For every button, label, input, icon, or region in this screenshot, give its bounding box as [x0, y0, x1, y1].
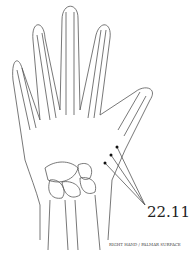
carpal-bones: [45, 162, 96, 198]
point-label: 22.11: [147, 203, 190, 221]
radius-ulna: [48, 195, 100, 250]
figure-caption: RIGHT HAND / PALMAR SURFACE: [109, 242, 181, 247]
acupoint-dots: [104, 146, 119, 165]
